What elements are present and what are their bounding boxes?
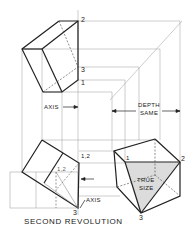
point-2-top: 2: [81, 16, 85, 23]
figure-caption: SECOND REVOLUTION: [24, 218, 123, 226]
axis-arrow-top: [63, 106, 78, 109]
axis-label-bottom: AXIS: [86, 197, 101, 203]
point-3-br: 3: [139, 214, 143, 221]
point-12-inner: 1,2: [57, 166, 66, 172]
bottom-left-view: [22, 140, 79, 208]
revolution-diagram: 2 3 1 AXIS DEPTH SAME 1,2 1,2 3 AXIS 1 2…: [0, 0, 195, 234]
point-2-br: 2: [181, 155, 185, 162]
point-1-br: 1: [126, 155, 130, 161]
revolution-arrow: [80, 178, 94, 209]
same-label: SAME: [140, 110, 158, 116]
point-3-top: 3: [81, 66, 85, 73]
depth-label: DEPTH: [138, 102, 160, 108]
true-label: TRUE: [137, 177, 155, 183]
point-12-outer: 1,2: [81, 153, 90, 159]
point-1-top: 1: [81, 79, 85, 86]
top-view: [22, 21, 78, 92]
axis-label-top: AXIS: [44, 104, 59, 110]
point-3-bl: 3: [73, 209, 77, 216]
size-label: SIZE: [139, 185, 154, 191]
